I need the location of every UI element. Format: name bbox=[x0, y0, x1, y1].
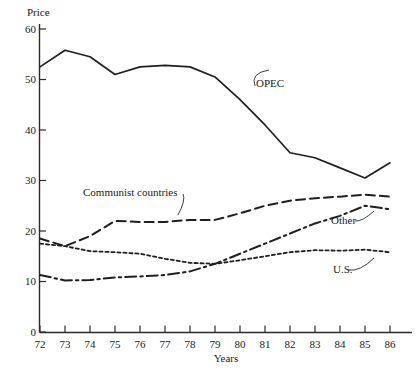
series-group bbox=[40, 50, 390, 280]
y-axis-ticks bbox=[40, 29, 47, 332]
x-tick-label: 82 bbox=[285, 338, 296, 350]
series-path-opec bbox=[40, 50, 390, 178]
x-tick-label: 84 bbox=[335, 338, 347, 350]
x-tick-label: 78 bbox=[185, 338, 197, 350]
y-axis-tick-labels: 60 50 40 30 20 10 0 bbox=[25, 23, 37, 338]
series-label-communist-countries: Communist countries bbox=[83, 186, 177, 198]
x-axis-title: Years bbox=[214, 352, 239, 364]
x-tick-label: 79 bbox=[210, 338, 222, 350]
y-tick-label: 0 bbox=[31, 326, 37, 338]
y-tick-label: 40 bbox=[25, 124, 37, 136]
x-tick-label: 86 bbox=[385, 338, 397, 350]
annotation-labels: OPEC Communist countries Other U.S. bbox=[83, 77, 356, 275]
x-tick-label: 72 bbox=[35, 338, 46, 350]
other-leader-line bbox=[355, 211, 374, 221]
x-tick-label: 77 bbox=[160, 338, 172, 350]
y-tick-label: 10 bbox=[25, 275, 37, 287]
x-axis-tick-labels: 727374757677787980818283848586 bbox=[35, 338, 397, 350]
y-tick-label: 30 bbox=[25, 174, 37, 186]
x-tick-label: 85 bbox=[360, 338, 372, 350]
y-tick-label: 60 bbox=[25, 23, 37, 35]
price-by-year-line-chart: Price 60 50 40 30 20 10 0 72737475767778… bbox=[0, 0, 418, 371]
x-axis-ticks bbox=[40, 326, 390, 333]
x-tick-label: 76 bbox=[135, 338, 147, 350]
x-tick-label: 81 bbox=[260, 338, 271, 350]
x-tick-label: 80 bbox=[235, 338, 247, 350]
chart-canvas: Price 60 50 40 30 20 10 0 72737475767778… bbox=[0, 0, 418, 371]
x-tick-label: 75 bbox=[110, 338, 122, 350]
y-tick-label: 50 bbox=[25, 73, 37, 85]
x-tick-label: 74 bbox=[85, 338, 97, 350]
communist-leader-line bbox=[178, 194, 184, 215]
series-path-us bbox=[40, 244, 390, 264]
y-tick-label: 20 bbox=[25, 225, 37, 237]
x-tick-label: 73 bbox=[60, 338, 72, 350]
series-label-us: U.S. bbox=[333, 263, 353, 275]
y-axis-title: Price bbox=[27, 6, 50, 18]
series-label-other: Other bbox=[331, 214, 356, 226]
series-label-opec: OPEC bbox=[256, 77, 284, 89]
x-tick-label: 83 bbox=[310, 338, 322, 350]
